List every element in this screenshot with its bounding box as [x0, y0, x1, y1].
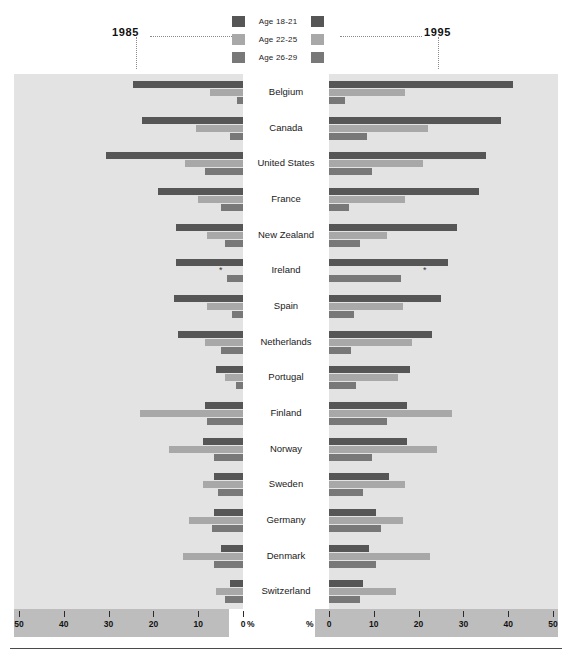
bar-1995-age-22-25 [329, 481, 405, 488]
footer-rule [10, 648, 562, 649]
bar-1995-age-18-21 [329, 509, 376, 516]
bar-1985-age-18-21 [174, 295, 243, 302]
bar-1985-age-26-29 [236, 382, 243, 389]
bar-1985-age-22-25 [185, 160, 243, 167]
bar-1985-age-18-21 [178, 331, 243, 338]
chart-row: Sweden [14, 466, 558, 502]
bar-1995-age-26-29 [329, 240, 360, 247]
legend-swatch-right-icon [311, 52, 324, 63]
bar-1985-age-22-25 [216, 588, 243, 595]
bar-1995-age-22-25 [329, 196, 405, 203]
bar-1995-age-18-21 [329, 366, 410, 373]
axis-tick-label-left: 30 [104, 619, 113, 629]
axis-unit-right: % [306, 619, 314, 629]
bar-1985-age-22-25 [203, 481, 243, 488]
bar-1985-age-26-29 [221, 204, 243, 211]
bar-1985-age-18-21 [133, 81, 243, 88]
axis-tick-right [508, 611, 509, 617]
country-label: Portugal [243, 369, 329, 385]
chart-legend: Age 18-21Age 22-25Age 26-29 [232, 14, 324, 64]
axis-unit-left: % [247, 619, 255, 629]
bar-1995-age-18-21 [329, 580, 363, 587]
chart-row: Canada [14, 110, 558, 146]
missing-data-marker: * [219, 267, 223, 274]
bar-1995-age-18-21 [329, 331, 432, 338]
leader-line-right [340, 36, 422, 38]
bar-1995-age-22-25 [329, 125, 428, 132]
legend-swatch-left-icon [232, 52, 245, 63]
bar-1995-age-18-21 [329, 81, 513, 88]
axis-tick-left [109, 611, 110, 617]
bar-1985-age-26-29 [205, 168, 243, 175]
bar-1985-age-26-29 [237, 97, 243, 104]
axis-tick-left [243, 611, 244, 617]
leader-drop-left [136, 37, 138, 69]
axis-tick-right [374, 611, 375, 617]
bar-1995-age-18-21 [329, 188, 479, 195]
bar-1985-age-18-21 [176, 224, 243, 231]
axis-tick-left [64, 611, 65, 617]
bar-1995-age-22-25 [329, 517, 403, 524]
legend-item: Age 18-21 [232, 14, 324, 28]
chart-row: Finland [14, 395, 558, 431]
chart-page: 1985 1995 Age 18-21Age 22-25Age 26-29 Be… [0, 0, 572, 658]
country-label: Canada [243, 120, 329, 136]
country-label: Spain [243, 298, 329, 314]
country-label: France [243, 191, 329, 207]
bar-1985-age-22-25 [207, 232, 243, 239]
bar-1985-age-26-29 [227, 275, 243, 282]
bar-1985-age-26-29 [212, 525, 243, 532]
bar-1985-age-22-25 [205, 339, 243, 346]
country-label: Denmark [243, 548, 329, 564]
axis-tick-label-right: 50 [548, 619, 557, 629]
country-label: Norway [243, 441, 329, 457]
leader-line-left [150, 36, 232, 38]
bar-1995-age-26-29 [329, 168, 372, 175]
bar-1985-age-26-29 [230, 133, 243, 140]
bar-1985-age-18-21 [230, 580, 243, 587]
chart-row: Ireland** [14, 252, 558, 288]
chart-row: Netherlands [14, 324, 558, 360]
legend-swatch-left-icon [232, 34, 245, 45]
bar-1995-age-22-25 [329, 89, 405, 96]
bar-1985-age-18-21 [142, 117, 243, 124]
bar-1995-age-18-21 [329, 224, 457, 231]
bar-1985-age-26-29 [225, 240, 243, 247]
chart-row: Belgium [14, 74, 558, 110]
legend-item-label: Age 26-29 [245, 53, 311, 62]
axis-tick-label-left: 50 [14, 619, 23, 629]
bar-1995-age-18-21 [329, 259, 448, 266]
bar-1995-age-18-21 [329, 295, 441, 302]
bar-1995-age-22-25 [329, 588, 396, 595]
bar-1985-age-22-25 [169, 446, 243, 453]
bar-1995-age-26-29 [329, 347, 351, 354]
bar-1995-age-22-25 [329, 553, 430, 560]
legend-item-label: Age 18-21 [245, 17, 311, 26]
bar-1985-age-18-21 [221, 545, 243, 552]
bar-1985-age-18-21 [205, 402, 243, 409]
bar-1995-age-26-29 [329, 596, 360, 603]
axis-tick-right [463, 611, 464, 617]
chart-header: 1985 1995 Age 18-21Age 22-25Age 26-29 [0, 0, 572, 74]
bar-1985-age-26-29 [214, 454, 243, 461]
axis-tick-label-left: 20 [149, 619, 158, 629]
bar-1995-age-26-29 [329, 133, 367, 140]
axis-tick-label-right: 10 [369, 619, 378, 629]
country-label: Sweden [243, 476, 329, 492]
bar-1985-age-18-21 [214, 473, 243, 480]
bar-1985-age-18-21 [216, 366, 243, 373]
bar-1995-age-26-29 [329, 204, 349, 211]
axis-tick-left [198, 611, 199, 617]
axis-tick-label-right: 30 [459, 619, 468, 629]
bar-1985-age-22-25 [207, 303, 243, 310]
bar-1985-age-22-25 [140, 410, 243, 417]
country-label: Germany [243, 512, 329, 528]
country-label: Switzerland [243, 583, 329, 599]
bar-1985-age-26-29 [225, 596, 243, 603]
plot-area: BelgiumCanadaUnited StatesFranceNew Zeal… [14, 74, 558, 609]
bar-1995-age-22-25 [329, 232, 387, 239]
bar-1995-age-22-25 [329, 446, 437, 453]
axis-band: 5040302010001020304050 [14, 609, 558, 637]
country-label: Netherlands [243, 334, 329, 350]
bar-1995-age-22-25 [329, 410, 452, 417]
